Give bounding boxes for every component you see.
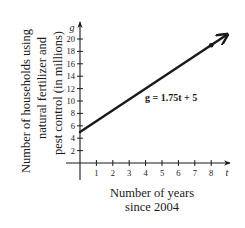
y-tick-label: 2 <box>71 146 75 156</box>
x-tick-label: 5 <box>160 168 164 178</box>
x-axis-label: Number of years since 2004 <box>110 186 194 214</box>
x-tick-label: 7 <box>193 168 197 178</box>
x-tick-label: 6 <box>176 168 180 178</box>
x-axis-variable: t <box>226 167 229 178</box>
y-tick-label: 16 <box>67 59 76 69</box>
x-axis-label-line-2: since 2004 <box>125 200 180 214</box>
series-line <box>80 34 228 132</box>
x-tick-label: 3 <box>127 168 131 178</box>
y-tick-label: 12 <box>67 84 76 94</box>
y-tick-label: 8 <box>71 108 75 118</box>
x-axis-label-line-1: Number of years <box>110 186 194 200</box>
x-tick-label: 2 <box>111 168 115 178</box>
y-axis-label: Number of households using natural ferti… <box>19 28 65 173</box>
y-tick-label: 6 <box>71 121 75 131</box>
y-axis-label-line-1: Number of households using <box>19 28 33 173</box>
equation-label: g = 1.75t + 5 <box>145 92 197 103</box>
y-axis-label-line-2: natural fertilizer and <box>35 36 49 139</box>
x-tick-label: 4 <box>143 168 148 178</box>
y-tick-label: 4 <box>71 133 76 143</box>
marked-point <box>209 43 214 48</box>
x-tick-label: 8 <box>209 168 213 178</box>
y-axis-variable: g <box>70 22 75 33</box>
x-tick-label: 1 <box>94 168 98 178</box>
y-tick-label: 10 <box>67 96 76 106</box>
line-chart: Number of households using natural ferti… <box>0 0 245 228</box>
y-tick-label: 14 <box>67 71 76 81</box>
y-tick-label: 20 <box>67 34 76 44</box>
y-axis-label-line-3: pest control (in millions) <box>51 31 65 155</box>
y-tick-label: 18 <box>67 46 76 56</box>
